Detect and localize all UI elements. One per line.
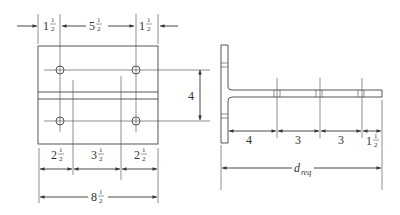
svg-text:1: 1 (374, 132, 378, 140)
svg-text:1: 1 (99, 188, 103, 196)
svg-text:2: 2 (142, 155, 146, 163)
svg-text:d: d (294, 161, 301, 175)
svg-text:1: 1 (43, 19, 49, 33)
svg-text:2: 2 (99, 197, 103, 205)
plate-outline (38, 46, 158, 144)
svg-text:2: 2 (97, 25, 101, 33)
dim-label-bottom-1: 2 1 2 (51, 146, 64, 163)
svg-text:2: 2 (374, 141, 378, 149)
svg-text:2: 2 (147, 25, 151, 33)
svg-text:1: 1 (147, 16, 151, 24)
dim-label-bottom-3: 2 1 2 (134, 146, 147, 163)
svg-text:2: 2 (99, 155, 103, 163)
svg-text:1: 1 (366, 134, 372, 148)
svg-text:8: 8 (91, 190, 97, 204)
plate-view (17, 14, 210, 203)
svg-text:1: 1 (59, 146, 63, 154)
svg-text:1: 1 (99, 146, 103, 154)
svg-text:5: 5 (89, 19, 95, 33)
svg-text:req: req (301, 168, 311, 177)
svg-text:3: 3 (91, 148, 97, 162)
svg-text:1: 1 (97, 16, 101, 24)
svg-text:1: 1 (142, 146, 146, 154)
dim-label-top-3: 1 1 2 (139, 16, 152, 33)
dim-label-overall: 8 1 2 (88, 188, 108, 206)
dim-label-top-2: 5 1 2 (86, 16, 108, 34)
dim-label-web-1: 4 (246, 133, 252, 147)
svg-text:1: 1 (51, 16, 55, 24)
dim-label-web-3: 3 (338, 133, 344, 147)
svg-text:2: 2 (59, 155, 63, 163)
svg-text:2: 2 (134, 148, 140, 162)
svg-text:2: 2 (51, 148, 57, 162)
dim-label-vertical: 4 (188, 89, 194, 103)
section-view (200, 45, 382, 190)
svg-text:2: 2 (51, 25, 55, 33)
technical-drawing: 1 1 2 5 1 2 1 1 2 2 1 2 3 1 (0, 0, 400, 215)
dim-label-d-req: d req (292, 160, 314, 177)
dim-label-web-4: 1 1 2 (366, 132, 379, 149)
dim-label-web-2: 3 (295, 133, 301, 147)
svg-text:1: 1 (139, 19, 145, 33)
dim-label-top-1: 1 1 2 (43, 16, 56, 33)
dim-label-bottom-2: 3 1 2 (91, 146, 104, 163)
